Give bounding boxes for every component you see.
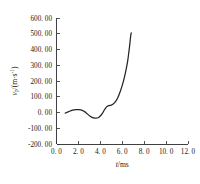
y-tick-label: 500. 00 [30,30,52,38]
x-tick-label: 4. 0 [95,148,106,156]
line-chart: -200. 00-100. 000. 00100. 00200. 00300. … [0,0,200,184]
y-tick-label: -100. 00 [28,125,52,133]
y-tick-label: 100. 00 [30,93,52,101]
x-tick-label: 8. 0 [139,148,150,156]
y-tick-label: 300. 00 [30,62,52,70]
y-axis-tick-labels: -200. 00-100. 000. 00100. 00200. 00300. … [28,15,52,149]
y-tick-label: 400. 00 [30,46,52,54]
x-axis-title: t/ms [116,160,129,169]
x-tick-label: 2. 0 [73,148,84,156]
y-tick-label: 0. 00 [38,109,53,117]
chart-figure: -200. 00-100. 000. 00100. 00200. 00300. … [0,0,200,184]
x-tick-label: 10. 0 [159,148,174,156]
y-tick-label: 600. 00 [30,15,52,23]
x-tick-label: 0. 0 [51,148,62,156]
y-tick-label: -200. 00 [28,141,52,149]
x-tick-label: 12. 0 [181,148,196,156]
x-tick-label: 6. 0 [117,148,128,156]
y-tick-label: 200. 00 [30,78,52,86]
chart-background [0,0,200,184]
